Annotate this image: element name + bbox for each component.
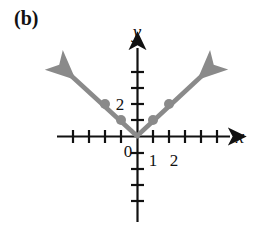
data-point <box>164 99 174 109</box>
y-tick-label-2: 2 <box>116 95 125 114</box>
x-axis-label: x <box>235 126 245 147</box>
x-tick-label-1: 1 <box>149 151 158 170</box>
data-point <box>148 115 158 125</box>
y-axis-label: y <box>131 21 142 42</box>
figure-panel: (b) <box>0 0 272 232</box>
data-point <box>100 99 110 109</box>
origin-label: 0 <box>124 142 133 161</box>
x-tick-label-2: 2 <box>170 151 179 170</box>
data-point <box>116 115 126 125</box>
absolute-value-graph: x y 0 1 2 2 <box>0 0 272 232</box>
